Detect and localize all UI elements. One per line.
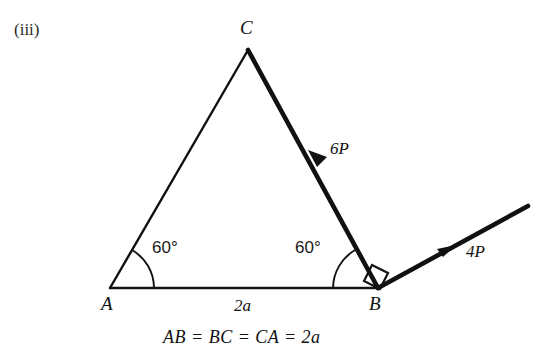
force-label-4P: 4P (466, 243, 485, 260)
vertex-label-C: C (240, 18, 253, 37)
angle-arc-at-A (132, 250, 154, 288)
angle-label-A: 60° (152, 239, 178, 256)
force-label-6P: 6P (330, 140, 349, 157)
figure-caption: AB = BC = CA = 2a (163, 328, 321, 346)
side-length-label-2a: 2a (234, 297, 251, 314)
triangle-force-diagram (0, 0, 550, 362)
side-AC-line (110, 50, 248, 288)
angle-arc-at-B (333, 250, 355, 288)
vertex-label-B: B (369, 294, 381, 313)
enumeration-label: (iii) (14, 21, 40, 38)
figure-container: (iii) C A B 60° 60° 6P 4P 2a AB = BC = C… (0, 0, 550, 362)
vertex-label-A: A (101, 294, 113, 313)
angle-label-B: 60° (295, 239, 321, 256)
